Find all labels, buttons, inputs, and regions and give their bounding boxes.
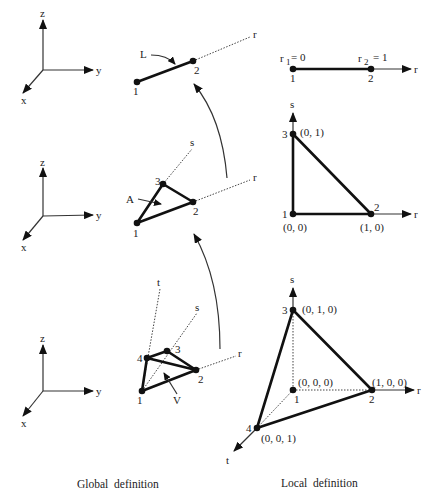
coord-node-3: (0, 1)	[300, 126, 324, 139]
node-1	[290, 211, 297, 218]
node-3	[164, 348, 171, 355]
y-axis-label: y	[96, 385, 102, 397]
svg-text:r: r	[358, 52, 362, 64]
node-1-label: 1	[133, 227, 139, 239]
node-1-label: 1	[282, 208, 288, 220]
pointer-arrow-icon	[164, 373, 177, 394]
z-axis-label: z	[40, 332, 45, 344]
element-label-A: A	[126, 193, 134, 205]
coord-node-2: (1, 0)	[360, 221, 384, 234]
r-axis-label: r	[417, 384, 421, 396]
r-axis-label: r	[253, 28, 257, 40]
local-triangle-element: s r 1 2 3 (0, 0) (1, 0) (0, 1)	[282, 98, 418, 234]
mapping-arrow-icon	[194, 84, 227, 178]
s-axis-label: s	[190, 136, 194, 148]
r-axis-label: r	[414, 63, 418, 75]
z-axis-label: z	[40, 7, 45, 19]
node-3	[290, 307, 297, 314]
node-1-label: 1	[137, 394, 143, 406]
node-2-label: 2	[374, 201, 380, 213]
coord-node-1: (0, 0, 0)	[298, 376, 333, 389]
r1-value-label: r 1 = 0	[280, 51, 306, 67]
node-3-label: 3	[282, 304, 288, 316]
node-2-label: 2	[194, 64, 200, 76]
node-2-label: 2	[368, 72, 374, 84]
r-axis-label: r	[238, 347, 242, 359]
node-1-label: 1	[133, 85, 139, 97]
caption-local: Local definition	[281, 477, 358, 489]
node-3	[160, 181, 167, 188]
node-1-label: 1	[290, 72, 296, 84]
global-triangle-element: s r 1 2 3 A	[126, 136, 257, 239]
node-3-label: 3	[155, 175, 161, 187]
global-axes-middle: z y x	[21, 156, 102, 253]
node-4-label: 4	[137, 352, 143, 364]
r2-value-label: r 2 = 1	[358, 51, 387, 67]
element-label-V: V	[173, 394, 181, 406]
z-axis-label: z	[40, 156, 45, 168]
svg-text:= 0: = 0	[291, 51, 306, 63]
s-axis-label: s	[195, 301, 199, 313]
r-axis-label: r	[253, 171, 257, 183]
coord-node-1: (0, 0)	[283, 221, 307, 234]
svg-text:= 1: = 1	[373, 51, 387, 63]
x-axis-label: x	[21, 417, 27, 429]
mapping-arrow-icon	[194, 234, 220, 349]
node-4	[254, 425, 261, 432]
node-3	[290, 131, 297, 138]
y-axis-label: y	[96, 209, 102, 221]
node-3-label: 3	[175, 343, 181, 355]
coord-node-2: (1, 0, 0)	[372, 376, 407, 389]
s-axis-label: s	[290, 98, 294, 110]
x-axis-label: x	[21, 94, 27, 106]
element-label-L: L	[140, 48, 147, 60]
node-3-label: 3	[282, 128, 288, 140]
svg-text:1: 1	[286, 57, 291, 67]
coord-node-3: (0, 1, 0)	[302, 303, 337, 316]
t-axis-label: t	[157, 276, 160, 288]
r-axis-label: r	[414, 208, 418, 220]
s-axis-label: s	[290, 273, 294, 285]
t-axis-label: t	[226, 454, 229, 466]
y-axis-label: y	[96, 64, 102, 76]
x-axis-label: x	[21, 241, 27, 253]
node-2-label: 2	[193, 205, 199, 217]
caption-global: Global definition	[77, 478, 159, 490]
svg-text:2: 2	[364, 57, 369, 67]
svg-text:r: r	[280, 52, 284, 64]
node-1	[134, 220, 141, 227]
coord-node-4: (0, 0, 1)	[261, 432, 296, 445]
finite-element-diagram: z y x z y x z y x r 1 2 L s r	[0, 0, 440, 499]
global-axes-top: z y x	[21, 7, 102, 106]
global-line-element: r 1 2 L	[133, 28, 257, 97]
node-4-label: 4	[246, 422, 252, 434]
global-axes-bottom: z y x	[21, 332, 102, 429]
local-tet-element: s r t 1 2 3 4 (0, 0, 0) (1, 0, 0) (0, 1,…	[226, 273, 421, 466]
node-4	[144, 355, 151, 362]
global-tet-element: t s r 1 2 3 4 V	[137, 276, 242, 406]
node-1-label: 1	[294, 393, 300, 405]
node-2-label: 2	[198, 373, 204, 385]
node-2-label: 2	[369, 393, 375, 405]
local-line-element: r 1 2 r 1 = 0 r 2 = 1	[280, 51, 418, 84]
pointer-arrow-icon	[151, 55, 175, 64]
